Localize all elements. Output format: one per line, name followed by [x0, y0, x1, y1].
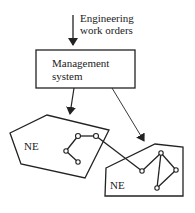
node	[140, 169, 144, 173]
node	[76, 160, 80, 164]
management-box-line2: system	[52, 70, 83, 82]
node	[159, 151, 163, 155]
management-box-line1: Management	[52, 57, 109, 69]
ne-right-label: NE	[110, 179, 125, 191]
node	[94, 134, 99, 139]
ne-left-label: NE	[24, 140, 39, 152]
node	[76, 134, 81, 139]
arrow-to-left-ne	[70, 88, 74, 114]
arrow-to-right-ne	[112, 88, 144, 141]
node	[64, 149, 68, 153]
management-system-box	[36, 50, 135, 88]
node	[155, 186, 159, 190]
input-label-line1: Engineering	[80, 12, 134, 24]
node	[174, 168, 178, 172]
input-label-line2: work orders	[80, 24, 133, 36]
network-management-diagram: Engineering work orders Management syste…	[0, 0, 195, 213]
diagram-canvas: Engineering work orders Management syste…	[0, 0, 195, 213]
